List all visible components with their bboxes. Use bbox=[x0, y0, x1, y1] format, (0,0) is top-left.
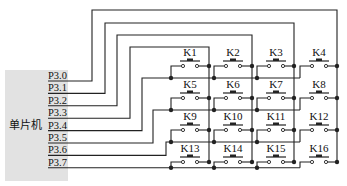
junction-dot bbox=[335, 160, 339, 164]
junction-dot bbox=[207, 128, 211, 132]
junction-dot bbox=[255, 108, 259, 112]
junction-dot bbox=[250, 64, 254, 68]
junction-dot bbox=[250, 96, 254, 100]
keypad-circuit-diagram: 单片机 P3.0P3.1P3.2P3.3P3.4P3.5P3.6P3.7 K1K… bbox=[0, 0, 347, 186]
junction-dot bbox=[292, 128, 296, 132]
junction-dot bbox=[169, 108, 173, 112]
junction-dot bbox=[212, 76, 216, 80]
junction-dot bbox=[169, 166, 173, 170]
junction-dot bbox=[335, 64, 339, 68]
junction-dot bbox=[292, 160, 296, 164]
junction-dot bbox=[255, 140, 259, 144]
junction-dot bbox=[207, 160, 211, 164]
junction-dot bbox=[335, 96, 339, 100]
junction-dot bbox=[212, 166, 216, 170]
junction-dot bbox=[250, 160, 254, 164]
junction-dot bbox=[255, 76, 259, 80]
junction-dot bbox=[212, 140, 216, 144]
junction-dot bbox=[212, 108, 216, 112]
junction-dot bbox=[292, 64, 296, 68]
junction-dot bbox=[207, 96, 211, 100]
junction-dot bbox=[207, 64, 211, 68]
circuit-wires bbox=[0, 0, 347, 186]
junction-dot bbox=[292, 96, 296, 100]
junction-dot bbox=[335, 128, 339, 132]
junction-dot bbox=[169, 140, 173, 144]
junction-dot bbox=[169, 76, 173, 80]
junction-dot bbox=[250, 128, 254, 132]
junction-dot bbox=[255, 166, 259, 170]
